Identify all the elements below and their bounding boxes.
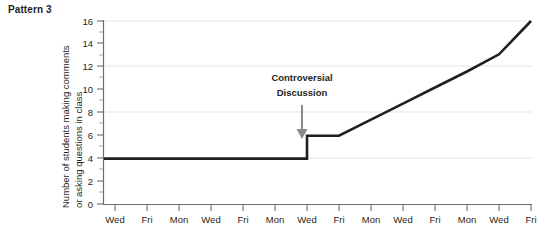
x-tick-label-3: Mon (170, 214, 188, 225)
x-tick-label-1: Wed (105, 214, 124, 225)
y-tick-label-10: 10 (82, 84, 93, 95)
x-tick-labels: Wed Fri Mon Wed Fri Mon Wed Fri Mon Wed … (105, 214, 536, 225)
x-tick-label-9: Mon (362, 214, 380, 225)
annotation-label: Controversial Discussion (271, 72, 332, 98)
annotation-arrow (297, 105, 308, 139)
y-tick-labels: 16 14 12 10 8 6 4 2 0 (82, 16, 93, 210)
y-tick-label-0: 0 (88, 199, 93, 210)
x-tick-label-11: Fri (429, 214, 440, 225)
x-tick-label-7: Wed (297, 214, 316, 225)
plot-area: 16 14 12 10 8 6 4 2 0 (0, 0, 547, 233)
y-axis-ticks (97, 21, 103, 204)
x-tick-label-6: Mon (266, 214, 284, 225)
y-tick-label-14: 14 (82, 38, 93, 49)
annotation-line-1: Controversial (271, 72, 332, 83)
y-tick-label-16: 16 (82, 16, 93, 27)
y-tick-label-12: 12 (82, 61, 93, 72)
pattern-3-chart-figure: Pattern 3 Number of students making comm… (0, 0, 547, 233)
y-tick-label-2: 2 (88, 176, 93, 187)
x-tick-label-8: Fri (333, 214, 344, 225)
x-tick-label-10: Wed (393, 214, 412, 225)
x-tick-label-5: Fri (237, 214, 248, 225)
x-tick-label-12: Mon (458, 214, 476, 225)
x-tick-label-2: Fri (141, 214, 152, 225)
annotation-line-2: Discussion (277, 87, 328, 98)
x-tick-label-14: Fri (525, 214, 536, 225)
y-tick-label-8: 8 (88, 107, 93, 118)
y-tick-label-6: 6 (88, 130, 93, 141)
y-tick-label-4: 4 (88, 153, 93, 164)
x-tick-label-13: Wed (489, 214, 508, 225)
x-tick-label-4: Wed (201, 214, 220, 225)
